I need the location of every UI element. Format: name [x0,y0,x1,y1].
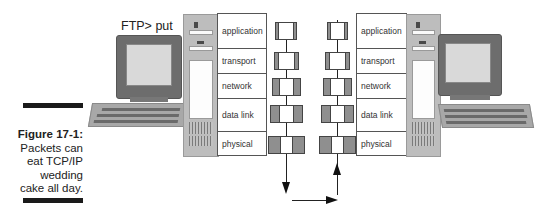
transfer-line [292,200,328,201]
receiver-keyboard [438,104,534,128]
tower-panel [189,60,213,119]
ftp-command-text: FTP> put [121,19,173,33]
packet-application [327,22,348,40]
packet-data-link [270,105,303,123]
arrow-up-icon [333,163,341,175]
receiver-layer-stack: application transport network data link … [356,13,407,156]
figure-label: Figure 17-1: [10,128,83,142]
sender-layer-data-link: data link [218,98,266,131]
key-row [444,109,525,112]
packet-transport [325,52,350,70]
packet-transport [274,52,299,70]
sender-keyboard [88,103,189,127]
caption-line-2: eat TCP/IP [10,155,83,169]
receiver-layer-transport: transport [357,48,406,73]
power-icon [416,22,420,28]
floppy-slot [419,41,426,44]
receiver-screen [445,43,491,83]
floppy-slot [197,41,204,44]
arrow-down-icon [282,182,290,194]
drive-bay [189,30,213,35]
receiver-tower-icon [406,14,441,157]
key-row [446,121,527,124]
sender-layer-transport: transport [218,48,266,73]
tower-vent [412,136,435,146]
sender-tower-icon [183,14,219,157]
sender-layer-physical: physical [218,131,266,155]
sender-layer-stack: application transport network data link … [217,13,267,156]
drive-bay [412,30,435,35]
receiver-computer-icon [438,34,538,130]
sender-computer-icon [90,35,185,131]
sender-layer-network: network [218,73,266,98]
key-row [97,114,180,117]
receiver-monitor-stand [450,95,490,100]
drive-bay [189,46,213,51]
caption-line-1: Packets can [10,142,83,156]
sender-layer-application: application [218,14,266,48]
sender-screen [126,44,172,86]
sender-monitor [116,35,182,99]
packet-application [275,22,297,40]
key-row [445,115,528,118]
caption-bottom-rule [23,198,83,203]
packet-network [272,78,301,96]
receiver-layer-network: network [357,73,406,98]
power-icon [194,22,198,28]
packet-data-link [321,105,354,123]
receiver-monitor [438,34,502,96]
receiver-layer-data-link: data link [357,98,406,131]
packet-physical [268,136,305,154]
tower-panel [412,60,435,119]
key-row [94,120,179,123]
sender-monitor-stand [130,97,168,102]
packet-network [323,78,352,96]
figure-caption: Figure 17-1: Packets can eat TCP/IP wedd… [10,128,83,196]
caption-line-3: wedding [10,169,83,183]
arrow-right-icon [326,196,338,204]
receiver-layer-physical: physical [357,131,406,155]
tower-vent [189,122,213,134]
key-row [102,108,181,111]
drive-bay [412,46,435,51]
tower-vent [412,122,435,134]
packet-physical [319,136,356,154]
receiver-layer-application: application [357,14,406,48]
caption-top-rule [23,103,83,108]
tower-vent [189,136,213,146]
caption-line-4: cake all day. [10,182,83,196]
